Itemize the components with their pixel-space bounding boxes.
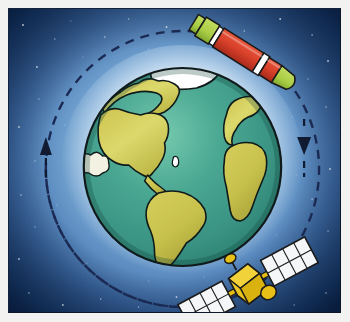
land-island: [172, 156, 178, 167]
earth-orbit-illustration: Earth with orbiting spacecraft A cartoon…: [9, 9, 340, 312]
space-scene: Earth with orbiting spacecraft A cartoon…: [8, 8, 341, 313]
illustration-frame: Earth with orbiting spacecraft A cartoon…: [0, 0, 350, 322]
